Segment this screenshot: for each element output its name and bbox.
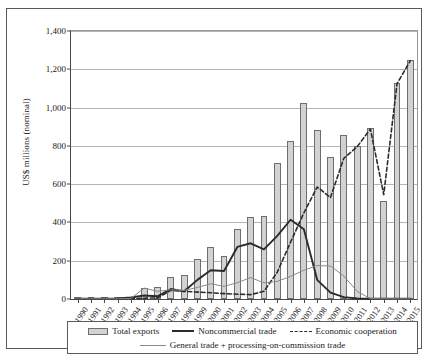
x-tick-mark [197,299,198,303]
legend-item-noncommercial-trade: Noncommercial trade [172,326,276,336]
x-tick-mark [331,299,332,303]
x-tick-mark [397,299,398,303]
x-tick-mark [317,299,318,303]
dashed-line-icon [290,331,312,332]
x-tick-mark [171,299,172,303]
y-tick-label: 0 [62,294,67,304]
legend-row-1: Total exports Noncommercial trade Econom… [68,324,417,338]
x-tick-mark [370,299,371,303]
x-tick-mark [264,299,265,303]
legend-label-economic-cooperation: Economic cooperation [316,326,397,336]
x-tick-mark [237,299,238,303]
y-tick-label: 800 [53,141,67,151]
line-series-layer [71,31,417,299]
figure-frame: US$ millions (nominal) 02004006008001,00… [6,8,422,349]
legend-label-noncommercial-trade: Noncommercial trade [198,326,276,336]
x-tick-mark [224,299,225,303]
y-tick-label: 400 [53,217,67,227]
x-tick-mark [291,299,292,303]
chart-screenshot: US$ millions (nominal) 02004006008001,00… [0,0,428,360]
y-tick-label: 1,000 [46,103,66,113]
x-tick-mark [211,299,212,303]
x-tick-mark [251,299,252,303]
line-economic-cooperation [78,61,411,299]
x-tick-mark [184,299,185,303]
legend-item-economic-cooperation: Economic cooperation [290,326,397,336]
chart-legend: Total exports Noncommercial trade Econom… [67,321,418,354]
x-tick-mark [91,299,92,303]
x-tick-mark [410,299,411,303]
legend-label-total-exports: Total exports [112,326,159,336]
x-tick-mark [144,299,145,303]
legend-label-general-trade: General trade + processing-on-commission… [170,340,346,350]
y-tick-label: 1,200 [46,64,66,74]
legend-item-total-exports: Total exports [88,326,159,336]
y-tick-label: 600 [53,179,67,189]
x-tick-mark [118,299,119,303]
x-tick-mark [304,299,305,303]
plot-area: 02004006008001,0001,2001,400 19901991199… [70,30,418,300]
x-tick-mark [357,299,358,303]
legend-row-2: General trade + processing-on-commission… [68,338,417,352]
x-tick-mark [384,299,385,303]
solid-line-icon [172,330,194,332]
x-tick-mark [78,299,79,303]
bar-swatch-icon [88,328,108,335]
x-tick-mark [131,299,132,303]
y-tick-label: 1,400 [46,26,66,36]
x-tick-mark [344,299,345,303]
y-axis-title: US$ millions (nominal) [21,72,31,212]
line-noncommercial-trade [78,220,411,299]
x-tick-mark [104,299,105,303]
legend-item-general-trade: General trade + processing-on-commission… [140,340,346,350]
y-tick-label: 200 [53,256,67,266]
thin-line-icon [140,345,166,346]
x-tick-mark [158,299,159,303]
x-tick-mark [277,299,278,303]
